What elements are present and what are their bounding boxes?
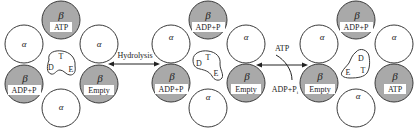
shaft-d-label: D	[196, 59, 202, 68]
beta-label: β	[243, 70, 250, 82]
beta-label: β	[353, 9, 360, 21]
beta-label: β	[316, 70, 323, 82]
alpha-label: α	[392, 32, 397, 42]
shaft-d-label: D	[48, 63, 54, 72]
alpha-label: α	[206, 92, 211, 102]
complex-state-3: α α α β ADP+P β Empty β ATP D T E	[300, 1, 413, 127]
alpha-label: α	[22, 39, 27, 49]
alpha-subunit-right	[227, 25, 265, 63]
beta-label: β	[57, 9, 64, 21]
nucleotide-state-label: ADP+P	[159, 85, 185, 94]
nucleotide-state-label: Empty	[88, 86, 109, 95]
nucleotide-state-label: ATP	[388, 85, 403, 94]
beta-label: β	[96, 72, 103, 84]
beta-label: β	[391, 70, 398, 82]
alpha-label: α	[97, 39, 102, 49]
f1-atpase-binding-change-diagram: α α α β ATP β ADP+P β Empty T D E Hydrol…	[0, 0, 418, 131]
alpha-label: α	[356, 91, 361, 101]
nucleotide-state-label: Empty	[235, 85, 256, 94]
nucleotide-state-label: ATP	[54, 23, 69, 32]
complex-state-1: α α α β ATP β ADP+P β Empty T D E	[5, 1, 118, 127]
beta-label: β	[21, 72, 28, 84]
shaft-t-label: T	[206, 53, 211, 62]
alpha-label: α	[320, 32, 325, 42]
complex-state-2: α α α β ADP+P β ADP+P β Empty T D E	[152, 1, 265, 127]
arrow-head-right-icon	[302, 63, 308, 68]
curved-exchange-arrow	[276, 55, 292, 80]
shaft-t-label: T	[361, 66, 366, 75]
shaft-t-label: T	[59, 52, 64, 61]
shaft-d-label: D	[358, 54, 364, 63]
adp-pi-out-label: ADP+Pi	[272, 85, 299, 95]
alpha-subunit-right	[375, 25, 413, 63]
beta-label: β	[204, 9, 211, 21]
shaft-e-label: E	[214, 69, 219, 78]
alpha-label: α	[59, 102, 64, 112]
nucleotide-state-label: ADP+P	[12, 86, 38, 95]
arrow-head-left-icon	[108, 62, 114, 67]
beta-subunit-left	[5, 65, 43, 103]
beta-label: β	[168, 70, 175, 82]
alpha-label: α	[169, 32, 174, 42]
nucleotide-state-label: ADP+P	[344, 23, 370, 32]
atp-in-label: ATP	[275, 44, 290, 53]
alpha-subunit-left	[152, 25, 190, 63]
hydrolysis-label: Hydrolysis	[117, 51, 152, 60]
arrow-head-left-icon	[256, 63, 262, 68]
shaft-e-label: E	[69, 65, 74, 74]
alpha-subunit-left	[300, 25, 338, 63]
alpha-label: α	[244, 32, 249, 42]
nucleotide-state-label: Empty	[309, 85, 330, 94]
arrow-head-right-icon	[154, 62, 160, 67]
nucleotide-state-label: ADP+P	[196, 23, 222, 32]
shaft-e-label: E	[346, 68, 351, 77]
beta-subunit-right	[80, 65, 118, 103]
